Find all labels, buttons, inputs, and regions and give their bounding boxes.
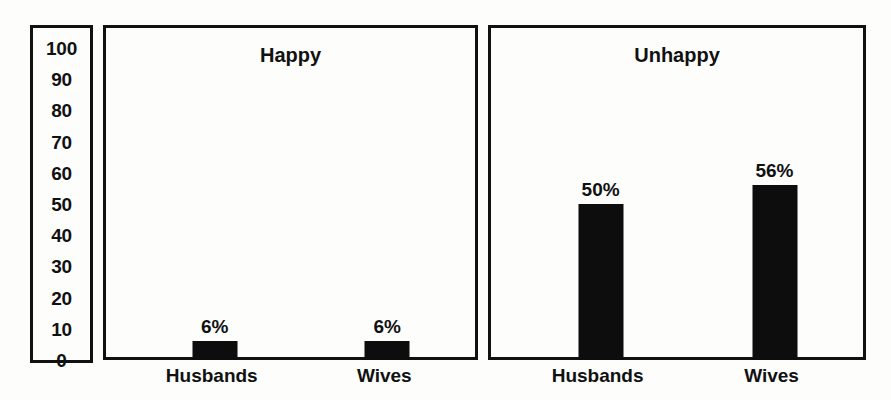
y-axis-tick-80: 80 (33, 101, 90, 120)
y-axis-tick-70: 70 (33, 133, 90, 152)
category-label-husbands: Husbands (552, 366, 644, 385)
y-axis-tick-90: 90 (33, 70, 90, 89)
bar-value-label: 6% (201, 317, 228, 336)
y-axis-tick-40: 40 (33, 226, 90, 245)
bar-unhappy-wives (752, 185, 797, 360)
y-axis-tick-50: 50 (33, 195, 90, 214)
y-axis-tick-100: 100 (33, 39, 90, 58)
y-axis-tick-0: 0 (33, 351, 90, 370)
chart-figure: 1009080706050403020100 Happy 6%6% Unhapp… (0, 0, 891, 400)
bar-unhappy-husbands (578, 204, 623, 360)
y-axis-tick-10: 10 (33, 320, 90, 339)
bar-value-label: 50% (582, 180, 620, 199)
panel-happy: Happy 6%6% (103, 25, 478, 360)
y-axis-tick-30: 30 (33, 257, 90, 276)
y-axis-scale-box: 1009080706050403020100 (30, 25, 93, 363)
bar-value-label: 56% (755, 161, 793, 180)
bar-happy-wives (365, 341, 410, 360)
category-label-husbands: Husbands (166, 366, 258, 385)
y-axis-tick-60: 60 (33, 164, 90, 183)
category-label-wives: Wives (357, 366, 412, 385)
panel-unhappy: Unhappy 50%56% (488, 25, 866, 360)
bar-value-label: 6% (374, 317, 401, 336)
bar-happy-husbands (192, 341, 237, 360)
y-axis-tick-20: 20 (33, 289, 90, 308)
category-label-wives: Wives (744, 366, 799, 385)
panel-happy-plot-area: 6%6% (106, 28, 475, 357)
panel-unhappy-plot-area: 50%56% (491, 28, 863, 357)
